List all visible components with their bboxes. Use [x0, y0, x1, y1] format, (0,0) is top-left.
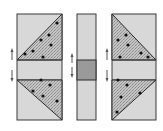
middle-panel: [77, 14, 96, 120]
right-panel: [112, 14, 156, 120]
left-panel: [17, 14, 62, 120]
arrow-down-icon: [11, 70, 14, 82]
arrow-down-icon: [106, 70, 109, 82]
middle-dark-band: [77, 60, 96, 80]
arrow-up-icon: [71, 53, 74, 63]
arrow-up-icon: [106, 48, 109, 60]
arrow-down-icon: [71, 67, 74, 78]
arrow-up-icon: [11, 48, 14, 60]
shear-diagram: [0, 0, 163, 131]
